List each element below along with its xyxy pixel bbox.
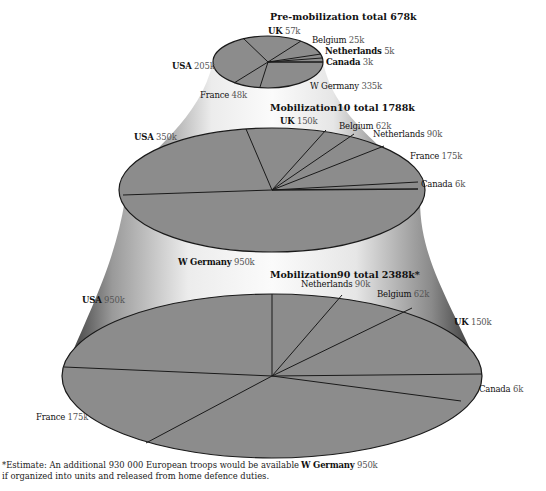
pre-label-canada: Canada 3k [326, 58, 373, 67]
m90-label-usa: USA 950k [82, 296, 125, 305]
m90-label-france: France 175k [36, 413, 88, 422]
mobilization10-title: Mobilization10 total 1788k [270, 103, 415, 113]
pie-mobilization10 [119, 128, 425, 252]
m90-label-uk: UK 150k [454, 318, 492, 327]
pre-label-usa: USA 205k [172, 62, 215, 71]
m10-label-wgermany: W Germany 950k [178, 258, 255, 267]
footnote-line-1: *Estimate: An additional 930 000 Europea… [2, 460, 322, 471]
pre-mobilization-title: Pre-mobilization total 678k [270, 12, 417, 22]
m10-label-uk: UK 150k [280, 117, 318, 126]
m10-label-usa: USA 350k [134, 133, 177, 142]
pre-label-wgermany: W Germany 335k [310, 82, 382, 91]
m90-label-belgium: Belgium 62k [377, 290, 429, 299]
pie-pre-mobilization [213, 36, 323, 88]
footnote-line-2: if organized into units and released fro… [2, 471, 322, 482]
pre-label-belgium: Belgium 25k [312, 36, 364, 45]
m10-label-canada: Canada 6k [421, 180, 465, 189]
m90-label-netherlands: Netherlands 90k [301, 280, 370, 289]
m10-label-france: France 175k [410, 152, 462, 161]
m90-label-canada: Canada 6k [479, 385, 523, 394]
pre-label-netherlands: Netherlands 5k [325, 47, 394, 56]
pre-label-uk: UK 57k [268, 27, 300, 36]
pre-label-france: France 48k [200, 91, 247, 100]
pie-mobilization90 [62, 294, 482, 458]
footnote: *Estimate: An additional 930 000 Europea… [2, 460, 322, 482]
m10-label-netherlands: Netherlands 90k [373, 130, 442, 139]
